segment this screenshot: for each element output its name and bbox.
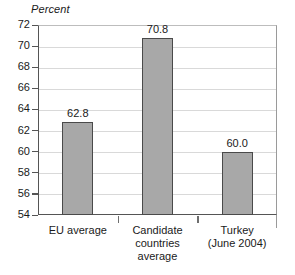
bar-chart: Percent 72706866646260585654 62.870.860.… [0, 0, 295, 275]
y-tick-mark [32, 67, 38, 68]
y-tick-mark [32, 172, 38, 173]
y-tick-label: 54 [0, 209, 30, 220]
y-tick-label: 58 [0, 167, 30, 178]
y-tick-label: 64 [0, 103, 30, 114]
x-category-label: EU average [38, 224, 118, 237]
y-tick-label: 68 [0, 61, 30, 72]
y-tick-label: 66 [0, 82, 30, 93]
y-tick-label: 56 [0, 188, 30, 199]
y-tick-mark [32, 46, 38, 47]
x-category-label: Candidate countries average [118, 224, 198, 263]
x-tick-mark [197, 216, 198, 223]
y-tick-mark [32, 215, 38, 216]
y-tick-label: 70 [0, 40, 30, 51]
bar-value-label: 70.8 [133, 24, 183, 35]
y-tick-mark [32, 25, 38, 26]
y-tick-mark [32, 88, 38, 89]
y-tick-mark [32, 151, 38, 152]
y-axis-title: Percent [31, 3, 70, 15]
bar-value-label: 60.0 [212, 138, 262, 149]
y-tick-label: 62 [0, 125, 30, 136]
y-tick-mark [32, 109, 38, 110]
bar [222, 152, 253, 215]
y-tick-label: 72 [0, 19, 30, 30]
x-tick-mark [118, 216, 119, 223]
y-tick-label: 60 [0, 146, 30, 157]
x-category-label: Turkey (June 2004) [197, 224, 277, 250]
bar-value-label: 62.8 [53, 108, 103, 119]
bar [62, 122, 93, 215]
y-tick-mark [32, 130, 38, 131]
bar [142, 38, 173, 215]
y-tick-mark [32, 193, 38, 194]
